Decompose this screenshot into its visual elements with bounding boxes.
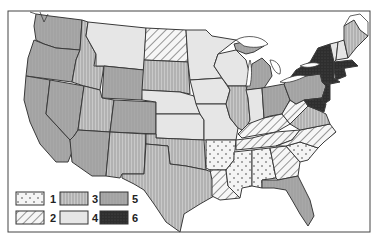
us-map: 1 2 3 4 5 6 [0, 0, 378, 240]
legend-label-6: 6 [132, 212, 138, 224]
state-co [110, 100, 156, 134]
map-figure: 1 2 3 4 5 6 [0, 0, 378, 240]
state-nm [106, 132, 146, 178]
legend-label-3: 3 [92, 193, 98, 205]
legend-label-1: 1 [50, 193, 56, 205]
legend-label-4: 4 [92, 212, 99, 224]
legend-swatch-2 [16, 211, 44, 224]
state-nd [144, 28, 188, 62]
legend-swatch-1 [16, 192, 44, 205]
legend-swatch-3 [60, 192, 88, 205]
legend-swatch-5 [100, 192, 128, 205]
legend-label-2: 2 [50, 212, 56, 224]
legend-swatch-4 [60, 211, 88, 224]
state-ia [190, 78, 230, 104]
state-ks [156, 114, 204, 140]
legend-swatch-6 [100, 211, 128, 224]
state-wy [102, 66, 144, 100]
state-sd [142, 60, 190, 94]
legend-label-5: 5 [132, 193, 138, 205]
